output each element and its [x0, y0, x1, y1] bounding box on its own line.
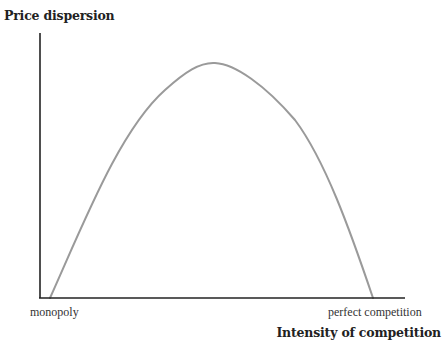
y-axis-title: Price dispersion: [4, 8, 114, 23]
x-axis-title: Intensity of competition: [276, 325, 441, 340]
price-dispersion-curve: [50, 63, 373, 298]
x-tick-label-monopoly: monopoly: [30, 305, 79, 320]
x-tick-label-perfect-competition: perfect competition: [328, 305, 422, 320]
chart-canvas: [0, 0, 446, 356]
